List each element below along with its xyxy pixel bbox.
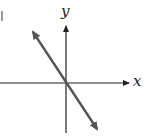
coordinate-diagram: y x	[0, 0, 154, 139]
y-axis-label: y	[61, 4, 69, 19]
x-axis-label: x	[133, 74, 141, 89]
graph-line	[33, 32, 97, 129]
graph-svg	[0, 0, 154, 139]
corner-mark	[1, 11, 3, 21]
